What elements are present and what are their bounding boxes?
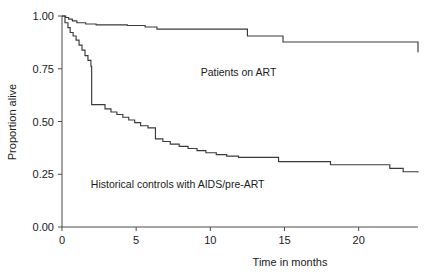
x-tick-label: 10 [204,234,216,246]
chart-background [0,0,426,274]
y-axis-title: Proportion alive [6,84,18,160]
x-tick-label: 15 [278,234,290,246]
chart-svg: 0.000.250.500.751.00 05101520 Patients o… [0,0,426,274]
x-axis-title: Time in months [253,256,328,268]
x-tick-label: 20 [353,234,365,246]
x-tick-label: 0 [59,234,65,246]
series-label-patients-on-art: Patients on ART [201,66,277,78]
survival-curve-chart: 0.000.250.500.751.00 05101520 Patients o… [0,0,426,274]
y-tick-label: 0.50 [33,116,54,128]
y-tick-label: 0.00 [33,221,54,233]
y-tick-label: 0.75 [33,63,54,75]
series-label-historical-controls: Historical controls with AIDS/pre-ART [91,178,265,190]
x-tick-label: 5 [133,234,139,246]
y-tick-label: 0.25 [33,168,54,180]
y-tick-label: 1.00 [33,10,54,22]
